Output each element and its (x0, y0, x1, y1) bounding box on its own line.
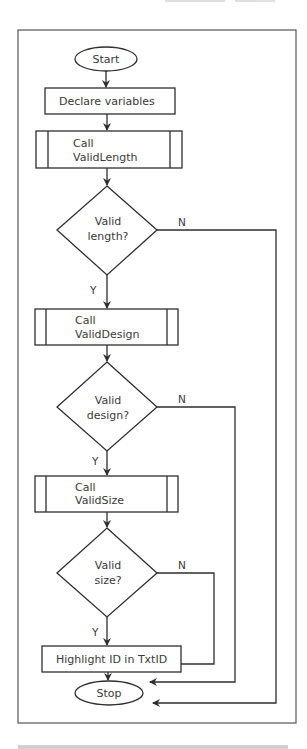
highlight-label: Highlight ID in TxtID (56, 653, 167, 666)
declare-process: Declare variables (45, 88, 175, 114)
decision-size-line2: size? (94, 574, 121, 587)
yes-label-length: Y (89, 284, 97, 296)
cropped-caption-bottom (18, 745, 288, 749)
decision-valid-size: Valid size? (57, 528, 157, 617)
decision-valid-design: Valid design? (57, 362, 157, 451)
no-label-size: N (178, 559, 186, 571)
decision-valid-length: Valid length? (57, 186, 157, 275)
call-length-line1: Call (73, 137, 94, 150)
cropped-text-top (165, 0, 275, 2)
arrow-design-no (150, 407, 235, 682)
call-design-line1: Call (75, 314, 96, 327)
stop-label: Stop (96, 687, 121, 700)
call-length-line2: ValidLength (73, 151, 137, 164)
call-validsize-subprocess: Call ValidSize (35, 476, 178, 512)
highlight-process: Highlight ID in TxtID (42, 646, 181, 672)
declare-label: Declare variables (59, 95, 155, 108)
no-label-design: N (178, 393, 186, 405)
flowchart-canvas: Start Declare variables Call ValidLength… (0, 0, 307, 749)
call-validdesign-subprocess: Call ValidDesign (35, 309, 178, 345)
call-design-line2: ValidDesign (75, 328, 140, 341)
call-size-line1: Call (75, 481, 96, 494)
start-terminal: Start (75, 47, 137, 71)
yes-label-size: Y (91, 626, 99, 638)
decision-length-line1: Valid (95, 215, 122, 228)
call-size-line2: ValidSize (75, 494, 124, 507)
decision-design-line1: Valid (95, 394, 122, 407)
decision-size-line1: Valid (95, 559, 122, 572)
call-validlength-subprocess: Call ValidLength (36, 131, 182, 168)
decision-design-line2: design? (87, 409, 129, 422)
no-label-length: N (178, 216, 186, 228)
yes-label-design: Y (91, 455, 99, 467)
stop-terminal: Stop (75, 681, 143, 705)
start-label: Start (93, 53, 121, 66)
decision-length-line2: length? (88, 230, 129, 243)
